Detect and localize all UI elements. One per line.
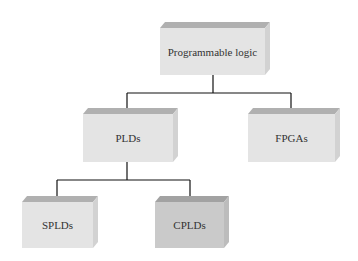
node-programmable-logic: Programmable logic bbox=[160, 22, 270, 75]
node-plds: PLDs bbox=[83, 108, 178, 162]
node-fpgas: FPGAs bbox=[248, 108, 340, 162]
node-label: PLDs bbox=[115, 132, 140, 144]
node-label-box: CPLDs bbox=[155, 202, 224, 248]
node-label: SPLDs bbox=[42, 219, 73, 231]
node-label: CPLDs bbox=[173, 219, 205, 231]
node-label-box: SPLDs bbox=[22, 202, 93, 248]
node-label: Programmable logic bbox=[168, 46, 258, 58]
node-label-box: FPGAs bbox=[248, 114, 335, 162]
node-cplds: CPLDs bbox=[155, 196, 229, 248]
node-label-box: Programmable logic bbox=[160, 28, 265, 75]
node-label-box: PLDs bbox=[83, 114, 173, 162]
node-label: FPGAs bbox=[275, 132, 307, 144]
node-splds: SPLDs bbox=[22, 196, 98, 248]
